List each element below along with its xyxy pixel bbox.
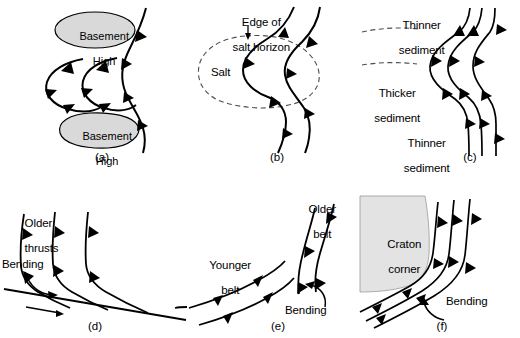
basement-high-top-blob	[55, 12, 135, 48]
panel-f: Craton corner Bending (f)	[350, 168, 520, 338]
panel-caption-d: (d)	[65, 320, 125, 332]
edge-salt-line1: Edge of	[242, 16, 281, 28]
thrust-tooth	[479, 118, 490, 129]
younger-belt-label: Younger belt	[183, 246, 259, 309]
salt-label: Salt	[211, 66, 251, 79]
bending-label-e: Bending	[285, 304, 347, 317]
panel-caption-b: (b)	[247, 151, 307, 163]
older-thrusts-line2: thrusts	[25, 242, 59, 254]
thrust-tooth	[88, 226, 99, 238]
thicker-sediment-line1: Thicker	[379, 87, 416, 99]
thrust-tooth	[269, 96, 281, 108]
thrust-tooth	[282, 128, 293, 139]
thrust-tooth	[304, 108, 315, 119]
bending-label-f: Bending	[446, 295, 516, 308]
older-belt-line1: Older	[308, 203, 336, 215]
thrust-tooth	[99, 103, 111, 113]
thrust-tooth	[89, 271, 100, 283]
panel-caption-f: (f)	[412, 320, 472, 332]
thrust-tooth	[437, 216, 448, 228]
panel-b: Edge of salt horizon Salt (b)	[175, 0, 350, 170]
transport-direction-arrowhead	[56, 310, 64, 317]
older-belt-line2: belt	[313, 228, 331, 240]
panel-caption-a: (a)	[72, 151, 132, 163]
panel-a-drawing	[0, 0, 175, 170]
thrust-trace-c3	[473, 8, 496, 156]
panel-d: Older thrusts Bending (d)	[0, 168, 190, 338]
panel-e: Older belt Younger belt Bending (e)	[175, 168, 350, 338]
edge-of-salt-horizon-label: Edge of salt horizon	[197, 3, 307, 66]
thrust-tooth	[306, 36, 318, 48]
thrust-tooth	[474, 56, 485, 67]
thrust-tooth	[465, 262, 476, 274]
thrust-tooth	[123, 92, 134, 103]
thicker-sediment-line2: sediment	[374, 112, 420, 124]
thrust-tooth	[496, 24, 507, 35]
thrust-tooth	[45, 89, 57, 99]
thrust-tooth	[481, 90, 492, 101]
panel-caption-c: (c)	[440, 151, 500, 163]
thrust-tooth	[433, 258, 444, 269]
thrust-belt-curvature-figure: Basement High Basement High (a)	[0, 0, 520, 338]
craton-corner-label: Craton corner	[362, 225, 428, 288]
craton-corner-line1: Craton	[387, 238, 421, 250]
thrust-trace-d3	[86, 212, 148, 313]
thrust-tooth	[121, 58, 132, 70]
younger-belt-line2: belt	[221, 284, 239, 296]
older-thrusts-line1: Older	[25, 217, 53, 229]
panel-caption-e: (e)	[248, 320, 308, 332]
thrust-tooth	[263, 292, 273, 304]
older-belt-label: Older belt	[283, 190, 343, 253]
basement-high-bottom-blob	[60, 113, 139, 148]
thrust-tooth	[448, 256, 459, 268]
transport-direction-line	[26, 307, 60, 313]
thrust-tooth	[471, 213, 482, 225]
panel-a: Basement High Basement High (a)	[0, 0, 175, 170]
thinner-sediment-top-line1: Thinner	[403, 19, 441, 31]
thrust-tooth	[63, 104, 75, 114]
thrust-tooth	[494, 133, 505, 144]
thinner-sediment-top-label: Thinner sediment	[370, 6, 455, 69]
thrust-tooth	[135, 30, 147, 42]
thrust-tooth	[286, 68, 297, 79]
edge-salt-line2: salt horizon	[232, 41, 290, 53]
bending-label-d: Bending	[2, 258, 72, 271]
thrust-tooth	[223, 312, 233, 324]
thrust-tooth	[465, 118, 476, 129]
panel-c: Thinner sediment Thicker sediment Thinne…	[345, 0, 520, 170]
thrust-tooth	[452, 214, 463, 226]
thrust-tooth	[442, 88, 453, 100]
craton-corner-line2: corner	[388, 263, 420, 275]
thinner-sediment-bottom-line1: Thinner	[408, 137, 446, 149]
thinner-sediment-top-line2: sediment	[399, 44, 445, 56]
younger-belt-line1: Younger	[209, 259, 251, 271]
